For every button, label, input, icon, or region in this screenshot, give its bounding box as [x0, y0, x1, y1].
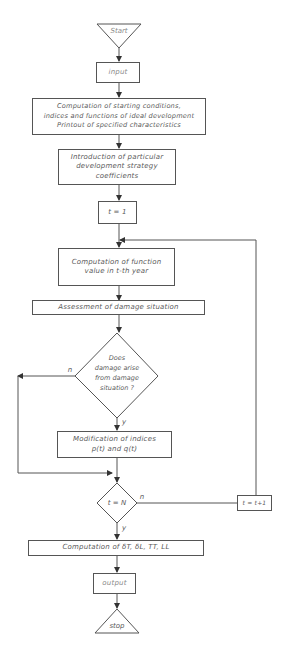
decision-damage-yes-label: y	[120, 418, 128, 427]
decision-end-yes-label: y	[120, 524, 128, 533]
final-computation-box: Computation of δT, δL, TT, LL	[28, 540, 204, 556]
input-box: input	[96, 62, 140, 83]
output-box: output	[93, 573, 136, 594]
start-terminal: Start	[104, 27, 134, 36]
t-init-box: t = 1	[98, 201, 137, 224]
decision-damage-no-label: n	[66, 366, 74, 375]
decision-end-text: t = N	[102, 499, 132, 508]
flowchart-canvas: Start input Computation of starting cond…	[0, 0, 289, 659]
init-computation-box: Computation of starting conditions, indi…	[32, 98, 206, 135]
compute-function-box: Computation of function value in t-th ye…	[58, 248, 175, 286]
decision-end-no-label: n	[138, 493, 146, 502]
assessment-box: Assessment of damage situation	[32, 300, 205, 315]
stop-terminal: stop	[103, 622, 131, 631]
increment-box: t = t+1	[237, 495, 272, 511]
modification-box: Modification of indices p(t) and q(t)	[57, 431, 172, 458]
decision-damage-text: Does damage arise from damage situation …	[82, 353, 152, 393]
strategy-coefficients-box: Introduction of particular development s…	[58, 149, 176, 185]
